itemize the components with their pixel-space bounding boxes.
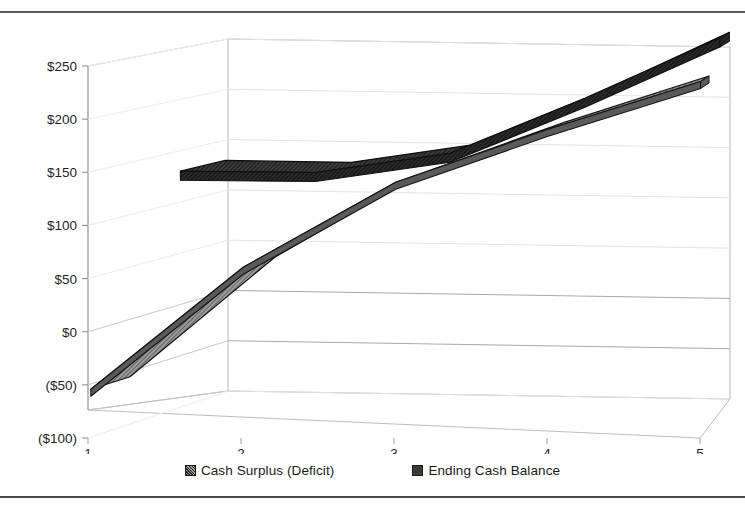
ribbon-top-face bbox=[91, 76, 709, 389]
chart-series-ribbon bbox=[91, 76, 709, 396]
y-axis-ticks bbox=[82, 66, 88, 438]
legend-item-ending-cash-balance[interactable]: Ending Cash Balance bbox=[412, 463, 560, 478]
x-axis-tick-label: 1 bbox=[84, 446, 92, 454]
y-gridline bbox=[228, 39, 730, 47]
y-axis-tick-label: $100 bbox=[47, 218, 77, 233]
ribbon-side-face bbox=[180, 38, 719, 181]
chart-series-layer bbox=[91, 32, 730, 396]
y-axis-tick-label: $200 bbox=[47, 112, 77, 127]
legend-item-cash-surplus[interactable]: Cash Surplus (Deficit) bbox=[185, 463, 335, 478]
chart-page: $250$200$150$100$50$0($50)($100) 12345 C… bbox=[0, 0, 745, 518]
y-gridline bbox=[228, 290, 730, 298]
y-gridlines bbox=[88, 39, 730, 438]
y-gridline-depth-connector bbox=[88, 89, 228, 119]
y-gridline bbox=[228, 190, 730, 198]
legend-swatch-icon bbox=[185, 465, 196, 476]
x-axis-ticks bbox=[88, 438, 700, 444]
y-axis-tick-label: $250 bbox=[47, 59, 77, 74]
legend-item-label: Cash Surplus (Deficit) bbox=[201, 463, 335, 478]
y-axis-tick-labels: $250$200$150$100$50$0($50)($100) bbox=[38, 59, 77, 446]
y-axis-tick-label: $50 bbox=[54, 272, 77, 287]
x-axis-tick-label: 4 bbox=[543, 446, 551, 454]
three-d-ribbon-chart: $250$200$150$100$50$0($50)($100) 12345 bbox=[0, 14, 745, 454]
chart-series-ribbon bbox=[180, 32, 729, 181]
legend-swatch-icon bbox=[412, 465, 423, 476]
y-axis-tick-label: $150 bbox=[47, 165, 77, 180]
chart-legend: Cash Surplus (Deficit) Ending Cash Balan… bbox=[0, 458, 745, 482]
y-axis-tick-label: ($50) bbox=[45, 378, 77, 393]
y-axis-tick-label: ($100) bbox=[38, 431, 77, 446]
y-gridline bbox=[228, 391, 730, 399]
floor-outline bbox=[88, 391, 730, 438]
y-gridline-depth-connector bbox=[88, 190, 228, 226]
x-axis-tick-label: 5 bbox=[696, 446, 704, 454]
y-gridline bbox=[228, 341, 730, 349]
x-axis-tick-labels: 12345 bbox=[84, 446, 704, 454]
y-axis-tick-label: $0 bbox=[62, 325, 77, 340]
y-gridline-depth-connector bbox=[88, 391, 228, 438]
page-rule-bottom bbox=[0, 496, 745, 498]
y-gridline-depth-connector bbox=[88, 240, 228, 278]
y-gridline-depth-connector bbox=[88, 39, 228, 66]
x-axis-tick-label: 2 bbox=[237, 446, 245, 454]
legend-item-label: Ending Cash Balance bbox=[428, 463, 560, 478]
ribbon-side-face bbox=[91, 82, 701, 397]
page-rule-top bbox=[0, 11, 745, 13]
x-axis-tick-label: 3 bbox=[390, 446, 398, 454]
chart-plot-area: $250$200$150$100$50$0($50)($100) 12345 bbox=[0, 14, 745, 454]
